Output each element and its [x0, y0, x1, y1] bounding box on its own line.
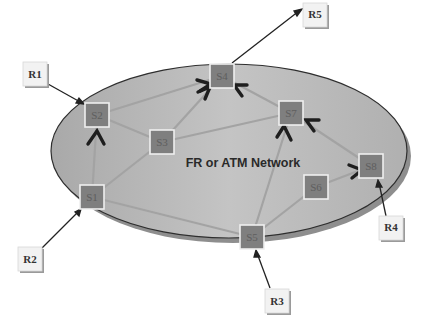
- arrow-r2-s1: [42, 211, 79, 248]
- arrow-s4-r5: [232, 11, 299, 63]
- router-label: R4: [384, 221, 398, 233]
- router-r4[interactable]: R4: [379, 216, 405, 242]
- switch-s5[interactable]: S5: [240, 225, 264, 249]
- switch-s7[interactable]: S7: [279, 101, 303, 125]
- arrow-r3-s5: [257, 253, 270, 288]
- switch-s4[interactable]: S4: [210, 64, 234, 88]
- arrow-r1-s2: [48, 84, 82, 103]
- network-diagram: S1 S2 S3 S4 S5 S6 S7 S8 FR or ATM Networ…: [0, 0, 438, 333]
- switch-s3[interactable]: S3: [150, 130, 174, 154]
- router-r5[interactable]: R5: [303, 3, 329, 29]
- router-label: R3: [270, 295, 284, 307]
- switch-s1[interactable]: S1: [80, 185, 104, 209]
- router-label: R1: [28, 68, 41, 80]
- switch-s2[interactable]: S2: [85, 103, 109, 127]
- switch-label: S2: [91, 109, 103, 121]
- switch-label: S8: [365, 160, 377, 172]
- router-r2[interactable]: R2: [18, 247, 44, 273]
- arrowhead-icon: [294, 9, 302, 16]
- switch-label: S5: [246, 231, 258, 243]
- switch-label: S4: [216, 70, 228, 82]
- router-label: R5: [308, 8, 322, 20]
- router-label: R2: [23, 253, 37, 265]
- network-cloud: [51, 64, 407, 238]
- switch-label: S6: [310, 181, 322, 193]
- switch-s8[interactable]: S8: [359, 154, 383, 178]
- router-r3[interactable]: R3: [265, 289, 291, 315]
- switch-label: S1: [86, 191, 98, 203]
- switch-label: S3: [156, 136, 168, 148]
- switch-s6[interactable]: S6: [304, 175, 328, 199]
- router-r1[interactable]: R1: [23, 62, 49, 88]
- switch-label: S7: [285, 107, 297, 119]
- arrowhead-icon: [254, 250, 260, 257]
- network-label: FR or ATM Network: [186, 156, 301, 170]
